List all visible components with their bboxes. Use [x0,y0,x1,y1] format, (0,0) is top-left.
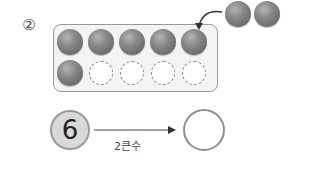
ten-frame-ball [119,29,145,55]
ten-frame-empty-slot [120,61,144,85]
arrow-right-icon [94,125,178,135]
ten-frame-ball [57,29,83,55]
ten-frame-empty-slot [182,61,206,85]
start-value-circle: 6 [50,110,90,150]
extra-ball [225,1,251,27]
operation-label: 2큰수 [114,137,141,153]
ten-frame-ball [88,29,114,55]
ten-frame-empty-slot [151,61,175,85]
curved-arrow-icon [180,6,226,34]
ten-frame-empty-slot [89,61,113,85]
extra-ball [254,1,280,27]
answer-circle[interactable] [183,109,225,151]
ten-frame-ball [150,29,176,55]
problem-number-label: ② [20,16,38,34]
ten-frame-ball [57,60,83,86]
